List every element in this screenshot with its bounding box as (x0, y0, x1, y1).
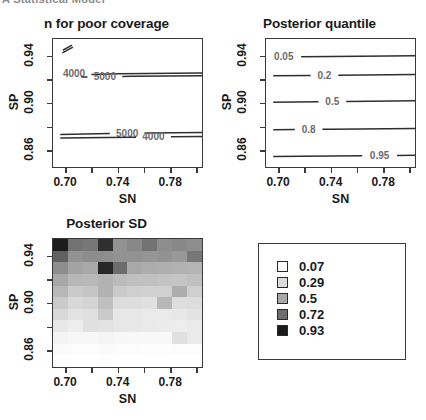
x-tick-label: 0.74 (93, 175, 143, 189)
heatmap-cell (98, 251, 113, 263)
heatmap-cell (187, 320, 202, 332)
y-tick-label: 0.94 (22, 37, 36, 73)
heatmap-cell (187, 332, 202, 344)
x-tick-mark (65, 168, 66, 173)
heatmap-cell (98, 297, 113, 309)
heatmap-cell (187, 286, 202, 298)
legend-panel: 0.070.290.50.720.93 (258, 243, 406, 360)
heatmap-cell (142, 344, 157, 356)
contour-label: 0.95 (370, 150, 390, 161)
heatmap-grid (53, 239, 202, 367)
panel-n-for-poor-coverage: n for poor coverage 4000500050004000 SP … (0, 10, 213, 210)
heatmap-cell (83, 297, 98, 309)
y-tick-label: 0.86 (22, 131, 36, 167)
heatmap-cell (127, 297, 142, 309)
heatmap-cell (53, 286, 68, 298)
x-tick-mark (357, 168, 358, 173)
heatmap-cell (127, 286, 142, 298)
heatmap-cell (83, 286, 98, 298)
heatmap-cell (68, 332, 83, 344)
y-tick-mark (47, 56, 52, 57)
y-tick-label: 0.94 (235, 37, 249, 73)
heatmap-cell (142, 274, 157, 286)
x-tick-mark (118, 368, 119, 373)
y-tick-mark (260, 127, 265, 128)
heatmap-cell (187, 309, 202, 321)
heatmap-cell (187, 344, 202, 356)
x-tick-mark (383, 168, 384, 173)
heatmap-cell (172, 239, 187, 251)
x-tick-mark (196, 368, 197, 373)
plot-area-quantile: 0.050.20.50.80.95 (265, 38, 416, 168)
heatmap-cell (83, 332, 98, 344)
heatmap-cell (127, 251, 142, 263)
x-tick-label: 0.70 (40, 175, 90, 189)
heatmap-cell (83, 239, 98, 251)
heatmap-cell (142, 355, 157, 367)
heatmap-cell (53, 239, 68, 251)
x-tick-mark (118, 168, 119, 173)
heatmap-cell (157, 309, 172, 321)
heatmap-cell (83, 309, 98, 321)
x-tick-label: 0.70 (40, 375, 90, 389)
contour-label: 5000 (94, 71, 117, 82)
x-tick-label: 0.74 (93, 375, 143, 389)
heatmap-cell (127, 355, 142, 367)
heatmap-cell (157, 274, 172, 286)
legend-label: 0.72 (299, 308, 324, 321)
heatmap-cell (127, 320, 142, 332)
heatmap-cell (113, 332, 128, 344)
heatmap-cell (98, 239, 113, 251)
heatmap-cell (53, 297, 68, 309)
axis-label-y-coverage: SP (7, 82, 21, 122)
heatmap-cell (53, 251, 68, 263)
x-tick-mark (144, 168, 145, 173)
legend-label: 0.93 (299, 324, 324, 337)
x-tick-mark (144, 368, 145, 373)
page-header-text: A Statistical Model (2, 0, 105, 5)
heatmap-cell (68, 274, 83, 286)
y-tick-mark (47, 150, 52, 151)
y-tick-mark (260, 56, 265, 57)
y-tick-label: 0.86 (22, 331, 36, 367)
heatmap-cell (98, 274, 113, 286)
contour-label: 0.2 (317, 70, 331, 81)
axis-label-x-coverage: SN (52, 192, 203, 206)
heatmap-cell (113, 262, 128, 274)
x-tick-label: 0.70 (253, 175, 303, 189)
heatmap-cell (157, 239, 172, 251)
heatmap-cell (127, 262, 142, 274)
y-tick-mark (47, 350, 52, 351)
heatmap-cell (142, 286, 157, 298)
heatmap-cell (113, 274, 128, 286)
heatmap-cell (83, 274, 98, 286)
contour-label: 4000 (142, 131, 165, 142)
x-tick-label: 0.78 (145, 375, 195, 389)
heatmap-cell (142, 251, 157, 263)
heatmap-cell (172, 355, 187, 367)
x-tick-mark (91, 368, 92, 373)
contour-label: 4000 (63, 68, 86, 79)
legend-item: 0.29 (277, 274, 324, 290)
x-tick-mark (170, 168, 171, 173)
heatmap-cell (68, 344, 83, 356)
y-tick-label: 0.90 (235, 84, 249, 120)
heatmap-cell (98, 262, 113, 274)
heatmap-cell (98, 344, 113, 356)
x-tick-mark (196, 168, 197, 173)
heatmap-cell (187, 297, 202, 309)
heatmap-cell (157, 251, 172, 263)
heatmap-cell (98, 320, 113, 332)
heatmap-cell (157, 320, 172, 332)
legend-color-swatch (277, 293, 288, 304)
legend-color-swatch (277, 277, 288, 288)
heatmap-cell (142, 297, 157, 309)
y-tick-mark (260, 79, 265, 80)
legend-item: 0.93 (277, 322, 324, 338)
heatmap-cell (157, 297, 172, 309)
heatmap-cell (172, 309, 187, 321)
heatmap-cell (98, 309, 113, 321)
heatmap-cell (98, 286, 113, 298)
heatmap-cell (142, 320, 157, 332)
heatmap-cell (83, 262, 98, 274)
